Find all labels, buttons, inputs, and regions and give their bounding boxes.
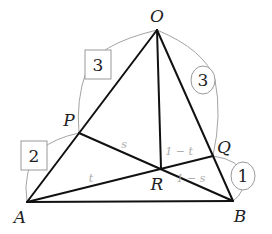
edge-AB	[27, 201, 233, 202]
ratio-OP-label: 3	[93, 55, 104, 75]
point-R-label: R	[150, 174, 164, 194]
point-A-label: A	[12, 207, 26, 227]
point-Q-label: Q	[217, 137, 231, 157]
geometry-diagram: 3 2 3 1 O A B P Q R s t 1 − t 1 − s	[0, 0, 272, 234]
segment-RB-label: 1 − s	[177, 172, 206, 185]
segment-RO-label: 1 − t	[165, 145, 193, 158]
segment-AR-label: t	[89, 172, 94, 185]
ratio-PA-label: 2	[29, 146, 40, 166]
edge-OR	[157, 30, 161, 168]
ratio-QB-label: 1	[238, 166, 249, 186]
point-P-label: P	[62, 110, 75, 130]
segment-PR-label: s	[121, 138, 127, 151]
point-B-label: B	[233, 206, 247, 226]
ratio-OQ-label: 3	[198, 70, 209, 90]
point-O-label: O	[150, 6, 164, 26]
